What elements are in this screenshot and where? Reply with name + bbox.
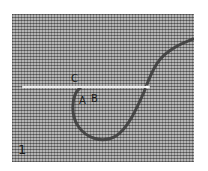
figure-number: 1 (18, 143, 26, 156)
thread-loop (73, 39, 193, 140)
label-a: A (79, 96, 86, 106)
stitch-illustration (12, 14, 194, 162)
label-b: B (91, 94, 98, 104)
embroidery-photo: C A B 1 (12, 14, 194, 162)
needle-eye (145, 85, 148, 88)
label-c: C (71, 74, 78, 84)
